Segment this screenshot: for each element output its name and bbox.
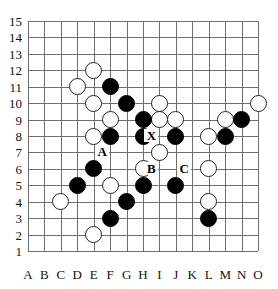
board-marker-x: X xyxy=(144,129,158,142)
white-stone-D11 xyxy=(69,78,86,95)
row-label-4: 4 xyxy=(0,196,22,209)
black-stone-F11 xyxy=(102,78,119,95)
column-label-M: M xyxy=(217,268,233,281)
grid-line-vertical xyxy=(159,21,160,251)
column-label-G: G xyxy=(119,268,135,281)
white-stone-E12 xyxy=(85,62,102,79)
white-stone-C4 xyxy=(52,193,69,210)
black-stone-J8 xyxy=(167,128,184,145)
white-stone-M9 xyxy=(217,111,234,128)
grid-line-vertical xyxy=(28,21,29,251)
black-stone-J5 xyxy=(167,177,184,194)
column-label-L: L xyxy=(201,268,217,281)
white-stone-I9 xyxy=(151,111,168,128)
column-label-J: J xyxy=(168,268,184,281)
grid-line-vertical xyxy=(61,21,62,251)
black-stone-E6 xyxy=(85,160,102,177)
white-stone-I7 xyxy=(151,144,168,161)
black-stone-F3 xyxy=(102,210,119,227)
white-stone-L4 xyxy=(200,193,217,210)
column-label-A: A xyxy=(20,268,36,281)
white-stone-F5 xyxy=(102,177,119,194)
row-label-7: 7 xyxy=(0,146,22,159)
black-stone-M8 xyxy=(217,128,234,145)
white-stone-J9 xyxy=(167,111,184,128)
white-stone-E8 xyxy=(85,128,102,145)
grid-line-vertical xyxy=(44,21,45,251)
grid-line-vertical xyxy=(77,21,78,251)
row-label-13: 13 xyxy=(0,48,22,61)
row-label-5: 5 xyxy=(0,179,22,192)
column-label-O: O xyxy=(250,268,266,281)
column-label-F: F xyxy=(102,268,118,281)
column-label-H: H xyxy=(135,268,151,281)
column-label-B: B xyxy=(36,268,52,281)
row-label-11: 11 xyxy=(0,81,22,94)
white-stone-E10 xyxy=(85,95,102,112)
board-marker-c: C xyxy=(177,162,191,175)
grid-line-vertical xyxy=(242,21,243,251)
row-label-8: 8 xyxy=(0,130,22,143)
black-stone-H5 xyxy=(135,177,152,194)
black-stone-D5 xyxy=(69,177,86,194)
grid-line-horizontal xyxy=(28,251,258,252)
column-label-C: C xyxy=(53,268,69,281)
white-stone-I10 xyxy=(151,95,168,112)
column-label-N: N xyxy=(234,268,250,281)
row-label-12: 12 xyxy=(0,64,22,77)
white-stone-O10 xyxy=(250,95,267,112)
black-stone-H9 xyxy=(135,111,152,128)
row-label-14: 14 xyxy=(0,31,22,44)
white-stone-L8 xyxy=(200,128,217,145)
board-marker-a: A xyxy=(95,145,109,158)
row-label-6: 6 xyxy=(0,163,22,176)
row-label-10: 10 xyxy=(0,97,22,110)
row-label-2: 2 xyxy=(0,229,22,242)
white-stone-F9 xyxy=(102,111,119,128)
column-label-K: K xyxy=(184,268,200,281)
grid-line-vertical xyxy=(258,21,259,251)
grid-line-vertical xyxy=(192,21,193,251)
black-stone-G4 xyxy=(118,193,135,210)
black-stone-G10 xyxy=(118,95,135,112)
white-stone-E2 xyxy=(85,226,102,243)
black-stone-N9 xyxy=(233,111,250,128)
column-label-E: E xyxy=(86,268,102,281)
black-stone-L3 xyxy=(200,210,217,227)
go-board-diagram: 151413121110987654321ABCDEFGHIJKLMNOXABC xyxy=(0,0,278,289)
column-label-I: I xyxy=(151,268,167,281)
row-label-1: 1 xyxy=(0,245,22,258)
black-stone-F8 xyxy=(102,128,119,145)
row-label-9: 9 xyxy=(0,114,22,127)
white-stone-L6 xyxy=(200,160,217,177)
board-marker-b: B xyxy=(144,162,158,175)
row-label-3: 3 xyxy=(0,212,22,225)
row-label-15: 15 xyxy=(0,15,22,28)
column-label-D: D xyxy=(69,268,85,281)
grid-line-vertical xyxy=(127,21,128,251)
